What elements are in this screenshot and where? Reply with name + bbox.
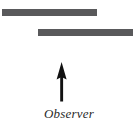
diagram-canvas: Observer [0, 0, 138, 129]
up-arrow-icon [50, 61, 74, 103]
observer-label: Observer [0, 106, 138, 122]
lower-bar [38, 29, 133, 36]
upper-bar [2, 9, 97, 16]
